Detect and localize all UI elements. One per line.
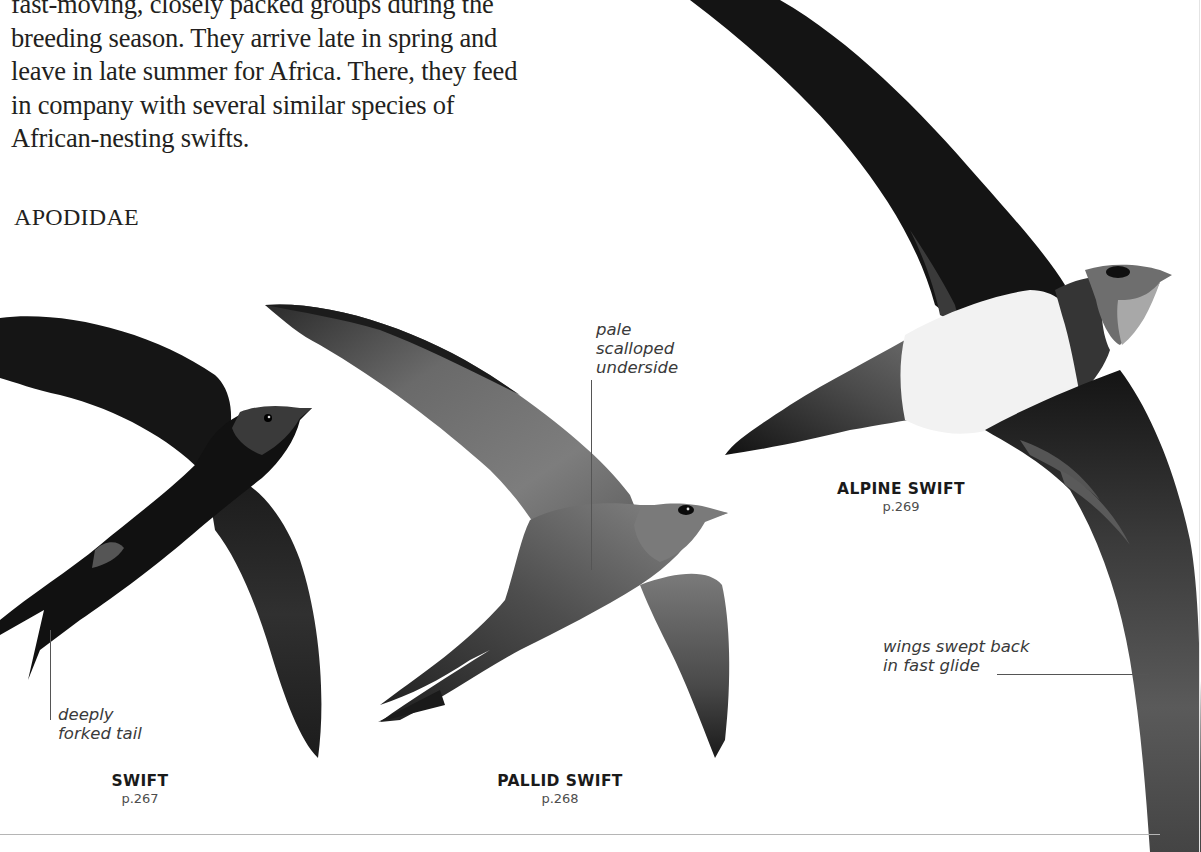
bird-illustrations <box>0 0 1201 852</box>
annotation-alpine-wings: wings swept back in fast glide <box>883 637 1030 675</box>
page-edge-line <box>1199 0 1200 852</box>
species-label-swift: SWIFT p.267 <box>90 772 190 807</box>
species-name: PALLID SWIFT <box>480 772 640 791</box>
alpine-swift-bird-icon <box>690 0 1201 852</box>
pallid-underside-leader-line <box>591 380 592 570</box>
species-page-ref: p.268 <box>480 791 640 807</box>
annotation-pallid-underside: pale scalloped underside <box>596 320 678 377</box>
annotation-swift-tail: deeply forked tail <box>58 705 142 743</box>
species-page-ref: p.267 <box>90 791 190 807</box>
species-label-alpine-swift: ALPINE SWIFT p.269 <box>826 480 976 515</box>
species-label-pallid-swift: PALLID SWIFT p.268 <box>480 772 640 807</box>
species-name: ALPINE SWIFT <box>826 480 976 499</box>
swift-bird-icon <box>0 316 321 758</box>
species-name: SWIFT <box>90 772 190 791</box>
species-page-ref: p.269 <box>826 499 976 515</box>
swift-tail-leader-line <box>50 630 51 720</box>
page-divider <box>0 834 1160 835</box>
